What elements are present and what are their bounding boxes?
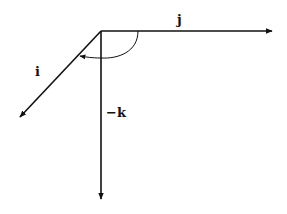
label-i: i: [35, 64, 40, 79]
label-neg-k: −k: [106, 105, 127, 120]
i-axis-arrow: [20, 31, 101, 117]
label-j: j: [176, 12, 182, 27]
vector-diagram: j i −k: [0, 0, 287, 214]
